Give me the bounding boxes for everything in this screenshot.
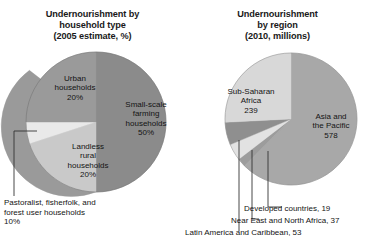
pie-label-asia-value: 578 bbox=[299, 131, 363, 140]
pie-label-ssa-line-2: Africa bbox=[213, 96, 289, 105]
pie-label-asia-line-2: the Pacific bbox=[299, 121, 363, 130]
pie-callout-near-east-north-africa: Near East and North Africa, 37 bbox=[231, 216, 340, 226]
figure-canvas: Undernourishment by household type (2005… bbox=[0, 0, 370, 244]
pie-label-asia-line-1: Asia and bbox=[299, 112, 363, 121]
pie-label-sub-saharan-africa: Sub-Saharan Africa 239 bbox=[213, 87, 289, 115]
pie-label-ssa-line-1: Sub-Saharan bbox=[213, 87, 289, 96]
pie-callout-developed-countries: Developed countries, 19 bbox=[244, 204, 330, 214]
pie-callout-latin-america-caribbean: Latin America and Caribbean, 53 bbox=[185, 228, 302, 238]
pie-label-ssa-value: 239 bbox=[213, 106, 289, 115]
pie-label-asia-and-the-pacific: Asia and the Pacific 578 bbox=[299, 112, 363, 140]
